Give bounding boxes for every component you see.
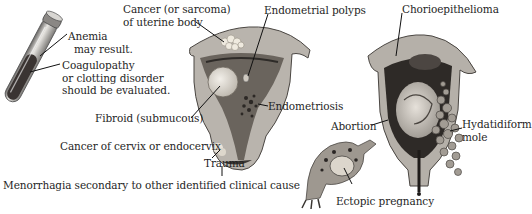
label-coagulopathy: Coagulopathy or clotting disorder should… xyxy=(62,59,170,97)
label-cancer-cervix: Cancer of cervix or endocervix xyxy=(60,140,221,153)
label-cancer-uterine-body: Cancer (or sarcoma) of uterine body xyxy=(123,3,231,28)
label-abortion: Abortion xyxy=(331,120,377,133)
label-trauma: Trauma xyxy=(204,157,245,170)
label-endometriosis: Endometriosis xyxy=(268,100,343,113)
label-ectopic-pregnancy: Ectopic pregnancy xyxy=(336,195,434,208)
label-hydatidiform-mole: Hydatidiform mole xyxy=(462,118,532,143)
label-endometrial-polyps: Endometrial polyps xyxy=(264,4,366,17)
label-chorioepithelioma: Chorioepithelioma xyxy=(402,3,499,16)
figure-caption: Menorrhagia secondary to other identifie… xyxy=(3,179,300,192)
blood-test-tube-icon xyxy=(1,9,63,105)
label-fibroid: Fibroid (submucous) xyxy=(95,112,203,125)
label-anemia: Anemia may result. xyxy=(68,30,133,55)
